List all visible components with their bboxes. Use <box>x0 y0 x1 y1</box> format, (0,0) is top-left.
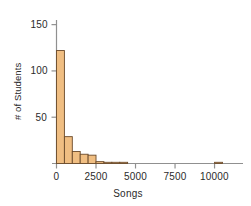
histogram-bar <box>64 137 72 164</box>
histogram-bar <box>57 51 65 164</box>
histogram-bar <box>112 162 120 163</box>
x-tick-label: 2500 <box>85 171 108 182</box>
histogram-bar <box>96 162 104 164</box>
histogram-bar <box>72 151 80 163</box>
x-tick-label: 7500 <box>164 171 187 182</box>
histogram-bar <box>80 154 88 163</box>
y-axis-ticks <box>52 25 57 118</box>
histogram-bar <box>215 162 223 163</box>
x-tick-label: 10000 <box>200 171 229 182</box>
x-tick-label: 5000 <box>124 171 147 182</box>
histogram-figure: 02500500075001000050100150 # of Students… <box>0 0 251 206</box>
y-tick-label: 50 <box>36 112 48 123</box>
y-tick-label: 100 <box>31 65 48 76</box>
histogram-bars <box>57 51 223 164</box>
histogram-bar <box>88 155 96 163</box>
histogram-bar <box>120 162 128 163</box>
x-axis-title: Songs <box>113 188 142 199</box>
y-tick-label: 150 <box>31 19 48 30</box>
x-axis-ticks <box>57 164 215 169</box>
histogram-bar <box>104 162 112 163</box>
x-tick-label: 0 <box>54 171 60 182</box>
y-axis-title: # of Students <box>12 63 23 120</box>
